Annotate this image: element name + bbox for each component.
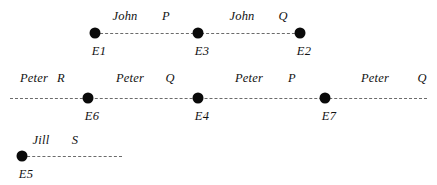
segment-actor-label: Peter [116, 71, 144, 86]
event-dot-e2 [295, 28, 306, 39]
event-dot-e4 [193, 93, 204, 104]
event-label-e4: E4 [195, 109, 209, 124]
segment-action-label: R [57, 71, 65, 86]
event-label-e2: E2 [297, 44, 311, 59]
segment-actor-label: Jill [33, 133, 50, 148]
segment-action-label: Q [165, 71, 174, 86]
event-dot-e3 [193, 28, 204, 39]
event-label-e1: E1 [92, 44, 106, 59]
segment-actor-label: John [229, 9, 254, 24]
event-label-e5: E5 [19, 167, 33, 182]
event-label-e6: E6 [85, 109, 99, 124]
event-dot-e7 [320, 93, 331, 104]
event-dot-e6 [83, 93, 94, 104]
event-dot-e1 [90, 28, 101, 39]
segment-actor-label: Peter [235, 71, 263, 86]
segment-action-label: Q [417, 71, 426, 86]
segment-actor-label: John [112, 9, 137, 24]
event-dot-e5 [17, 151, 28, 162]
segment-action-label: P [162, 9, 170, 24]
segment-actor-label: Peter [361, 71, 389, 86]
timeline-jill [22, 156, 122, 157]
event-label-e3: E3 [195, 44, 209, 59]
segment-action-label: S [72, 133, 78, 148]
diagram-canvas: JohnPJohnQE1E3E2PeterRPeterQPeterPPeterQ… [0, 0, 437, 185]
event-label-e7: E7 [322, 109, 336, 124]
segment-action-label: Q [278, 9, 287, 24]
segment-actor-label: Peter [20, 71, 48, 86]
timeline-peter [10, 98, 427, 99]
segment-action-label: P [288, 71, 296, 86]
